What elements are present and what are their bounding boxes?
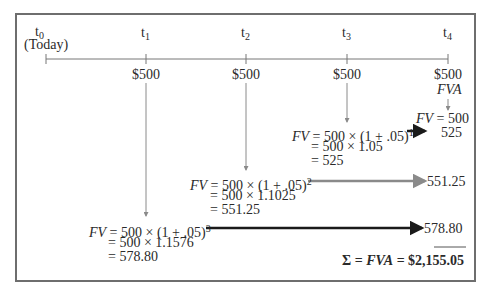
t2-step3: = 551.25	[210, 203, 260, 217]
t4-fv-line: FV = 500	[416, 112, 469, 126]
period-label-t4: t4	[443, 26, 452, 44]
total-fva: Σ = FVA = $2,155.05	[342, 254, 464, 268]
payment-t3: $500	[333, 68, 361, 82]
period-note-today: (Today)	[24, 38, 68, 52]
t2-result: 551.25	[427, 175, 466, 189]
t1-step2: = 500 × 1.1576	[108, 236, 194, 250]
period-label-t3: t3	[342, 26, 351, 44]
t3-step3: = 525	[311, 154, 343, 168]
t1-step3: = 578.80	[108, 250, 158, 264]
payment-t2: $500	[232, 68, 260, 82]
payment-t1: $500	[132, 68, 160, 82]
t1-result: 578.80	[424, 222, 463, 236]
t2-step2: = 500 × 1.1025	[210, 189, 296, 203]
t3-step2: = 500 × 1.05	[311, 140, 383, 154]
timeline-axis	[46, 54, 448, 64]
payment-t4: $500	[434, 68, 462, 82]
fva-label: FVA	[437, 83, 462, 97]
period-label-t2: t2	[241, 26, 250, 44]
t4-result: 525	[441, 126, 462, 140]
period-label-t1: t1	[141, 26, 150, 44]
